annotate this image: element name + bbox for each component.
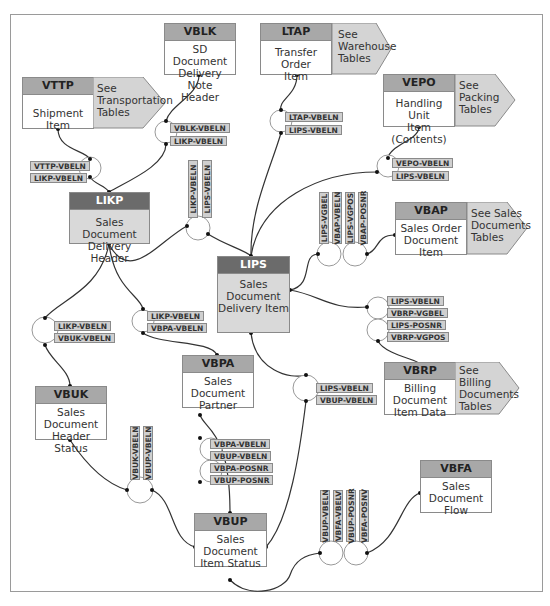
- desc-line: Document: [396, 234, 466, 246]
- join-key: LTAP-VBELN: [285, 112, 343, 122]
- desc-line: Transfer Order: [261, 46, 331, 70]
- join-key: VBPA-VBELN: [147, 323, 207, 333]
- see-line: Documents: [459, 388, 519, 400]
- join-key-vertical: LIPS-VBELN: [202, 160, 212, 218]
- see-line: Billing: [459, 376, 519, 388]
- join-key: LIPS-VBELN: [392, 171, 449, 181]
- desc-line: Header: [165, 91, 235, 103]
- desc-line: Sales: [183, 375, 253, 387]
- join-key: LIPS-VBELN: [285, 125, 342, 135]
- see-line: See: [97, 82, 173, 94]
- desc-line: SD Document: [165, 43, 235, 67]
- table-vbpa-name: VBPA: [183, 356, 253, 373]
- table-vttp-name: VTTP: [23, 78, 93, 95]
- desc-line: Sales Document: [70, 216, 149, 240]
- desc-line: Partner: [183, 399, 253, 411]
- see-warehouse-tables-arrow[interactable]: See Warehouse Tables: [332, 23, 392, 75]
- see-line: See: [459, 79, 499, 91]
- see-sales-documents-tables-arrow[interactable]: See Sales Documents Tables: [467, 202, 529, 255]
- join-key: LIPS-POSNR: [387, 320, 446, 330]
- desc-line: Item Data: [385, 406, 455, 418]
- join-key: VBLK-VBELN: [170, 123, 230, 133]
- see-billing-documents-tables-arrow[interactable]: See Billing Documents Tables: [455, 362, 521, 415]
- see-line: Tables: [97, 106, 173, 118]
- see-line: See: [459, 364, 519, 376]
- join-key: LIKP-VBELN: [170, 136, 227, 146]
- join-key: LIKP-VBELN: [30, 173, 87, 183]
- table-vbuk[interactable]: VBUK Sales Document Header Status: [35, 386, 107, 440]
- see-line: Tables: [459, 400, 519, 412]
- join-key: VBRP-VGBEL: [387, 308, 448, 318]
- join-key-vertical: VBUP-POSNR: [346, 490, 356, 542]
- table-vbrp[interactable]: VBRP Billing Document Item Data: [384, 362, 456, 415]
- table-vepo-name: VEPO: [384, 75, 454, 92]
- join-key: VEPO-VBELN: [392, 158, 453, 168]
- join-key: LIKP-VBELN: [54, 321, 111, 331]
- table-likp-name: LIKP: [70, 193, 149, 210]
- table-vblk[interactable]: VBLK SD Document Delivery Note Header: [164, 23, 236, 75]
- desc-line: Item: [396, 246, 466, 258]
- join-key-vertical: VBFA-POSNV: [359, 490, 369, 542]
- desc-line: Sales: [195, 533, 266, 545]
- see-line: Transportation: [97, 94, 173, 106]
- table-vbap[interactable]: VBAP Sales Order Document Item: [395, 202, 467, 255]
- table-likp[interactable]: LIKP Sales Document Delivery Header: [69, 192, 150, 244]
- table-vttp[interactable]: VTTP Shipment Item: [22, 77, 94, 129]
- join-key-vertical: VBUP-VBELN: [143, 426, 153, 480]
- join-key-vertical: VBAP-VBELN: [332, 192, 342, 244]
- table-vbup-name: VBUP: [195, 514, 266, 531]
- table-vbfa-name: VBFA: [421, 461, 491, 478]
- table-vbap-name: VBAP: [396, 203, 466, 220]
- see-transportation-tables-arrow[interactable]: See Transportation Tables: [93, 77, 167, 129]
- desc-line: Document: [36, 418, 106, 430]
- table-vbfa[interactable]: VBFA Sales Document Flow: [420, 460, 492, 513]
- table-vepo[interactable]: VEPO Handling Unit Item (Contents): [383, 74, 455, 127]
- desc-line: Document: [218, 290, 289, 302]
- desc-line: Shipment Item: [23, 107, 93, 131]
- desc-line: Document: [385, 394, 455, 406]
- see-line: Packing: [459, 91, 499, 103]
- desc-line: Sales: [218, 278, 289, 290]
- join-key: VBPA-POSNR: [210, 463, 273, 473]
- join-key: LIKP-VBELN: [147, 311, 204, 321]
- join-key: VBUP-VBELN: [210, 451, 271, 461]
- join-key: LIPS-VBELN: [316, 383, 373, 393]
- table-vbrp-name: VBRP: [385, 363, 455, 380]
- see-line: Tables: [338, 52, 396, 64]
- table-lips[interactable]: LIPS Sales Document Delivery Item: [217, 256, 290, 333]
- desc-line: Sales: [36, 406, 106, 418]
- table-lips-name: LIPS: [218, 257, 289, 274]
- table-ltap-name: LTAP: [261, 24, 331, 41]
- table-vblk-name: VBLK: [165, 24, 235, 41]
- desc-line: Item (Contents): [384, 121, 454, 145]
- join-key: VBUP-POSNR: [210, 475, 273, 485]
- join-key-vertical: LIKP-VBELN: [188, 160, 198, 218]
- see-line: Documents: [471, 219, 531, 231]
- desc-line: Document: [195, 545, 266, 557]
- join-key: VBUK-VBELN: [54, 333, 115, 343]
- join-key-vertical: VBUK-VBELN: [130, 426, 140, 480]
- table-vbpa[interactable]: VBPA Sales Document Partner: [182, 355, 254, 408]
- join-key: VBRP-VGPOS: [387, 332, 449, 342]
- see-line: Warehouse: [338, 40, 396, 52]
- see-packing-tables-arrow[interactable]: See Packing Tables: [455, 74, 517, 127]
- table-ltap[interactable]: LTAP Transfer Order Item: [260, 23, 332, 75]
- desc-line: Document: [421, 492, 491, 504]
- desc-line: Header Status: [36, 430, 106, 454]
- table-vbuk-name: VBUK: [36, 387, 106, 404]
- join-key: LIPS-VBELN: [387, 296, 444, 306]
- table-vbup[interactable]: VBUP Sales Document Item Status: [194, 513, 267, 567]
- desc-line: Item: [261, 70, 331, 82]
- join-key-vertical: LIPS-VGPOS: [345, 192, 355, 244]
- desc-line: Delivery Item: [218, 302, 289, 314]
- join-key-vertical: VBUP-VBELN: [320, 490, 330, 542]
- see-line: See Sales: [471, 207, 531, 219]
- see-line: Tables: [471, 231, 531, 243]
- desc-line: Document: [183, 387, 253, 399]
- desc-line: Item Status: [195, 557, 266, 569]
- desc-line: Flow: [421, 504, 491, 516]
- join-key: VBPA-VBELN: [210, 439, 270, 449]
- join-key-vertical: LIPS-VGBEL: [319, 192, 329, 244]
- desc-line: Handling Unit: [384, 97, 454, 121]
- see-line: See: [338, 28, 396, 40]
